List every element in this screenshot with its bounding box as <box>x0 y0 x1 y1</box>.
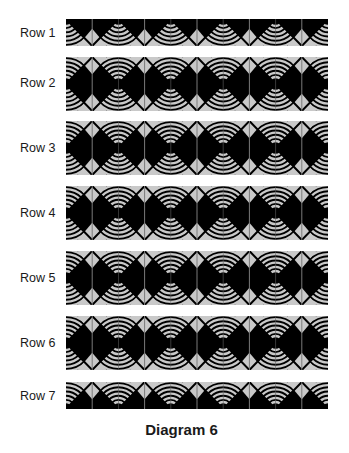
block-pattern <box>66 19 328 46</box>
diagram-caption: Diagram 6 <box>0 421 349 438</box>
row-label-6: Row 6 <box>20 336 55 350</box>
row-label-1: Row 1 <box>20 26 55 40</box>
row-label-7: Row 7 <box>20 389 55 403</box>
row-strip-5 <box>66 251 328 305</box>
row-strip-2 <box>66 57 328 111</box>
row-strip-4 <box>66 186 328 240</box>
block-pattern <box>66 186 328 240</box>
row-strip-1 <box>66 19 328 46</box>
block-pattern <box>66 57 328 111</box>
row-label-4: Row 4 <box>20 206 55 220</box>
row-label-3: Row 3 <box>20 141 55 155</box>
row-label-5: Row 5 <box>20 271 55 285</box>
block-pattern <box>66 121 328 175</box>
block-pattern <box>66 251 328 305</box>
row-strip-6 <box>66 316 328 370</box>
block-pattern <box>66 382 328 409</box>
row-strip-7 <box>66 382 328 409</box>
row-strip-3 <box>66 121 328 175</box>
row-label-2: Row 2 <box>20 76 55 90</box>
block-pattern <box>66 316 328 370</box>
